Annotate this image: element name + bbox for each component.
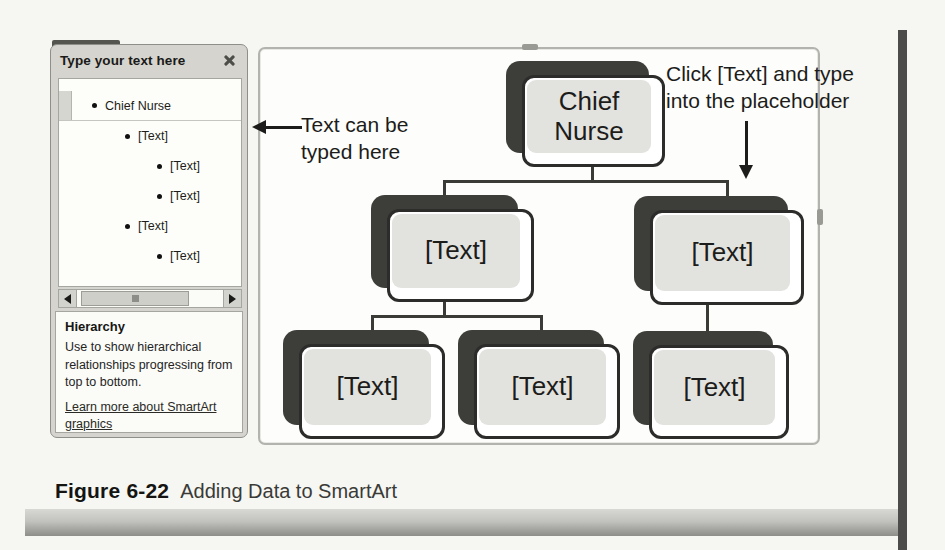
annotation-text-pane: Text can be typed here — [301, 112, 439, 165]
smartart-text-pane: Type your text here Chief Nurse [Text] [… — [50, 44, 248, 438]
layout-info-panel: Hierarchy Use to show hierarchical relat… — [55, 311, 243, 433]
node-label: [Text] — [479, 349, 606, 425]
page-edge-bar — [898, 30, 907, 550]
connector-rail-level2 — [443, 180, 729, 183]
annotation-left-arrow-line — [265, 126, 302, 129]
text-pane-outline: Chief Nurse [Text] [Text] [Text] [Text] … — [58, 78, 242, 287]
text-pane-title: Type your text here — [60, 53, 185, 68]
org-node-level3-left1[interactable]: [Text] — [299, 344, 445, 439]
node-box: [Text] — [650, 210, 804, 305]
horizontal-scrollbar[interactable] — [58, 289, 242, 308]
org-node-level2-left[interactable]: [Text] — [387, 209, 534, 302]
bullet-icon — [125, 134, 130, 139]
text-pane-header: Type your text here — [51, 45, 247, 76]
node-box: [Text] — [299, 344, 445, 439]
outline-item[interactable]: [Text] — [59, 121, 241, 151]
outline-item[interactable]: [Text] — [59, 181, 241, 211]
canvas-resize-handle-right[interactable] — [817, 209, 823, 225]
node-box: Chief Nurse — [522, 75, 665, 167]
org-node-level2-right[interactable]: [Text] — [650, 210, 804, 305]
outline-item-label: Chief Nurse — [105, 99, 171, 113]
figure-caption: Figure 6-22 Adding Data to SmartArt — [55, 479, 397, 503]
node-label: Chief Nurse — [527, 80, 651, 153]
outline-item[interactable]: [Text] — [59, 241, 241, 271]
left-arrow-icon — [252, 120, 266, 134]
bullet-icon — [125, 224, 130, 229]
node-box: [Text] — [649, 345, 789, 439]
close-button[interactable] — [221, 52, 238, 68]
scroll-right-icon — [229, 294, 236, 304]
org-node-level3-left2[interactable]: [Text] — [474, 344, 620, 439]
outline-item-label: [Text] — [170, 249, 200, 263]
outline-item-chief-nurse[interactable]: Chief Nurse — [59, 91, 241, 121]
down-arrow-icon — [739, 165, 753, 179]
org-node-level3-right[interactable]: [Text] — [649, 345, 789, 439]
figure-caption-label: Figure 6-22 — [55, 479, 169, 503]
scroll-left-button[interactable] — [59, 290, 77, 307]
node-label: [Text] — [655, 215, 790, 291]
outline-item-label: [Text] — [138, 219, 168, 233]
org-node-root[interactable]: Chief Nurse — [522, 75, 665, 167]
scroll-left-icon — [64, 294, 71, 304]
outline-item-label: [Text] — [170, 159, 200, 173]
layout-description: Use to show hierarchical relationships p… — [65, 339, 237, 392]
outline-item[interactable]: [Text] — [59, 151, 241, 181]
node-label: [Text] — [392, 214, 520, 288]
outline-item[interactable]: [Text] — [59, 211, 241, 241]
bullet-icon — [157, 254, 162, 259]
annotation-placeholder: Click [Text] and type into the placehold… — [666, 61, 892, 114]
node-box: [Text] — [387, 209, 534, 302]
scrollbar-track[interactable] — [77, 290, 223, 307]
scroll-right-button[interactable] — [223, 290, 241, 307]
bullet-icon — [157, 194, 162, 199]
outline-item-label: [Text] — [138, 129, 168, 143]
bullet-icon — [92, 103, 97, 108]
close-icon — [221, 52, 238, 68]
caption-gradient-bar — [25, 509, 898, 536]
scrollbar-thumb[interactable] — [81, 291, 189, 306]
annotation-down-arrow-line — [745, 121, 748, 166]
node-label: [Text] — [654, 350, 775, 425]
canvas-resize-handle-top[interactable] — [522, 44, 538, 50]
learn-more-link[interactable]: Learn more about SmartArt graphics — [65, 399, 237, 433]
layout-name: Hierarchy — [65, 319, 233, 334]
bullet-icon — [157, 164, 162, 169]
connector-rail-level3 — [371, 315, 543, 318]
scrollbar-grip-icon — [132, 295, 139, 302]
outline-item-label: [Text] — [170, 189, 200, 203]
figure-caption-text: Adding Data to SmartArt — [180, 480, 397, 503]
node-box: [Text] — [474, 344, 620, 439]
node-label: [Text] — [304, 349, 431, 425]
figure-6-22: Type your text here Chief Nurse [Text] [… — [0, 0, 945, 550]
